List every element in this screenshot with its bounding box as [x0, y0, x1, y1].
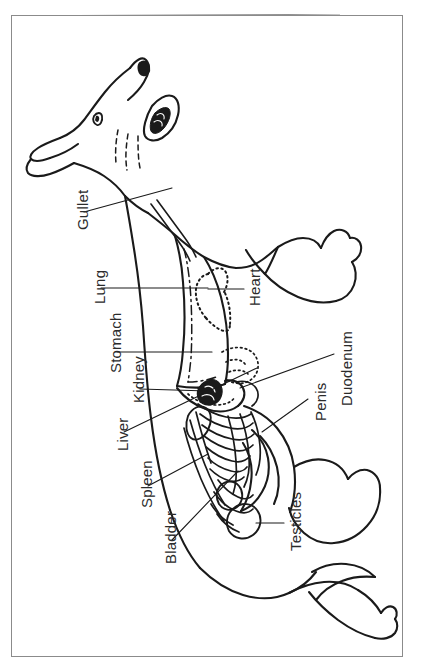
- label-spleen: Spleen: [138, 460, 155, 508]
- front-leg: [246, 230, 361, 303]
- nose: [139, 62, 150, 76]
- hind-legs: [289, 459, 397, 638]
- label-gullet: Gullet: [74, 190, 91, 230]
- label-heart: Heart: [246, 268, 263, 306]
- label-lung: Lung: [91, 270, 108, 304]
- label-penis: Penis: [312, 382, 329, 421]
- figure-frame: Gullet Lung Heart Stomach Kidney Liver S…: [11, 15, 403, 657]
- gullet-tube: [151, 200, 196, 261]
- kidney-region: [197, 380, 222, 406]
- label-bladder: Bladder: [162, 511, 179, 564]
- label-liver: Liver: [114, 417, 131, 451]
- throat-dashes: [116, 130, 140, 170]
- page-root: Gullet Lung Heart Stomach Kidney Liver S…: [0, 0, 422, 671]
- label-testicles: Testicles: [287, 492, 304, 551]
- label-stomach: Stomach: [107, 312, 124, 373]
- ear: [144, 96, 179, 141]
- label-kidney: Kidney: [130, 356, 147, 403]
- intestines-region: [184, 404, 260, 532]
- label-duodenum: Duodenum: [338, 331, 355, 406]
